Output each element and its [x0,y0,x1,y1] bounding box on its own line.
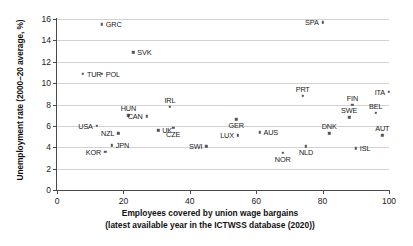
data-point-label: JPN [116,141,129,150]
x-axis-title-line2: (latest available year in the ICTWSS dat… [40,220,380,232]
data-point-label: GER [229,121,244,130]
data-point [301,95,303,97]
data-point-label: LUX [220,131,234,140]
gridline [57,169,389,170]
data-point-label: USA [78,121,93,130]
data-point-label: NOR [275,155,291,164]
y-tick-mark [53,62,57,63]
gridline [57,126,389,127]
data-point-label: SPA [305,18,319,27]
data-point [82,72,84,74]
data-point-label: TUR [87,69,102,78]
x-tick-mark [389,190,390,194]
y-tick-label: 12 [42,57,51,67]
scatter-chart-figure: Unemployment rate (2000–20 average, %) 0… [0,0,413,246]
gridline [57,40,389,41]
data-point [381,134,383,136]
y-tick-mark [53,83,57,84]
x-tick-label: 80 [318,196,327,206]
data-point-label: SVK [137,48,151,57]
y-tick-mark [53,126,57,127]
data-point-label: POL [106,69,120,78]
data-point [328,132,330,134]
data-point-label: FIN [347,94,358,103]
x-tick-mark [190,190,191,194]
x-tick-label: 100 [382,196,396,206]
data-point-label: BEL [369,102,382,111]
y-tick-mark [53,40,57,41]
data-point [305,145,307,147]
data-point-label: DNK [322,122,337,131]
y-tick-label: 4 [46,142,51,152]
data-point [101,23,103,25]
x-axis-line [56,190,390,191]
data-point-label: GRC [106,20,122,29]
y-tick-label: 14 [42,35,51,45]
y-axis-title: Unemployment rate (2000–20 average, %) [15,10,25,190]
data-point [169,105,171,107]
data-point-label: SWI [189,142,202,151]
y-tick-mark [53,105,57,106]
x-tick-mark [123,190,124,194]
data-point-label: AUS [264,128,279,137]
y-tick-label: 2 [46,164,51,174]
data-point [132,51,134,53]
y-tick-label: 8 [46,100,51,110]
data-point-label: PRT [296,85,310,94]
data-point [237,134,239,136]
data-point [145,115,147,117]
data-point-label: ITA [375,87,385,96]
y-tick-mark [53,19,57,20]
y-tick-mark [53,169,57,170]
data-point [117,132,119,134]
x-axis-title-line1: Employees covered by union wage bargains [40,208,380,220]
data-point-label: NLD [299,148,313,157]
gridline [57,62,389,63]
y-tick-mark [53,147,57,148]
data-point-label: ISL [360,144,371,153]
x-tick-label: 60 [251,196,260,206]
x-tick-mark [256,190,257,194]
data-point [104,150,106,152]
x-tick-label: 20 [119,196,128,206]
data-point [235,118,237,120]
data-point-label: SWE [341,106,357,115]
data-point [375,112,377,114]
plot-area: 0246810121416 020406080100 GRCSPASVKTURP… [57,19,389,190]
data-point [258,131,260,133]
x-tick-mark [323,190,324,194]
y-tick-label: 10 [42,78,51,88]
x-tick-label: 40 [185,196,194,206]
y-tick-label: 0 [46,185,51,195]
gridline [57,83,389,84]
gridline [57,147,389,148]
data-point [355,147,357,149]
data-point [111,144,113,146]
data-point-label: AUT [375,124,389,133]
data-point [348,116,350,118]
data-point [172,127,174,129]
data-point-label: NZL [101,129,114,138]
data-point [205,145,207,147]
y-tick-label: 6 [46,121,51,131]
data-point-label: KOR [86,147,101,156]
data-point [321,21,323,23]
data-point [96,125,98,127]
gridline [57,105,389,106]
data-point [101,72,103,74]
data-point [388,90,390,92]
x-tick-label: 0 [55,196,60,206]
data-point-label: UK [162,126,172,135]
y-tick-label: 16 [42,14,51,24]
data-point [157,129,159,131]
x-tick-mark [57,190,58,194]
x-axis-title: Employees covered by union wage bargains… [40,208,380,231]
data-point [282,151,284,153]
data-point-label: CAN [128,112,143,121]
data-point-label: IRL [164,96,175,105]
